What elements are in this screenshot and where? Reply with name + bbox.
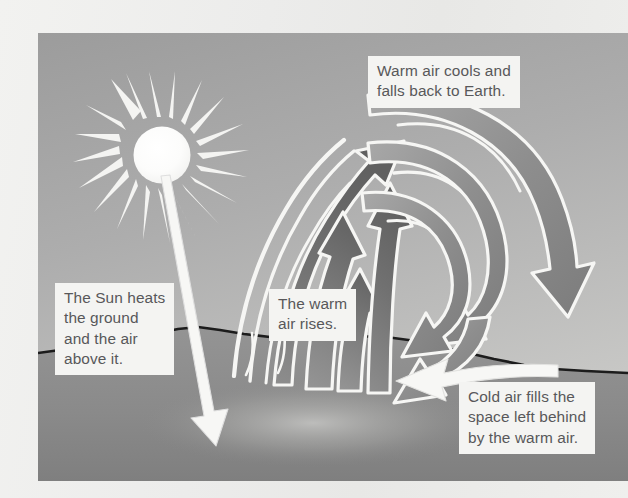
caption-sun-heats-ground: The Sun heats the ground and the air abo…	[55, 283, 174, 375]
caption-warm-air-cools: Warm air cools and falls back to Earth.	[368, 56, 520, 108]
caption-cold-air-fills: Cold air fills the space left behind by …	[459, 382, 595, 454]
caption-warm-air-rises: The warm air rises.	[269, 289, 356, 341]
sun-core	[134, 127, 191, 184]
page-canvas: Warm air cools and falls back to Earth. …	[0, 0, 628, 498]
